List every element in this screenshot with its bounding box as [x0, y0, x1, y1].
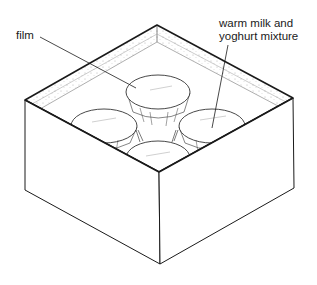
label-mixture: warm milk and yoghurt mixture — [219, 17, 298, 43]
label-mixture-line1: warm milk and — [219, 17, 298, 30]
label-mixture-line2: yoghurt mixture — [219, 30, 298, 43]
pot-back — [126, 75, 190, 126]
label-film: film — [16, 29, 34, 42]
label-film-text: film — [16, 29, 34, 41]
